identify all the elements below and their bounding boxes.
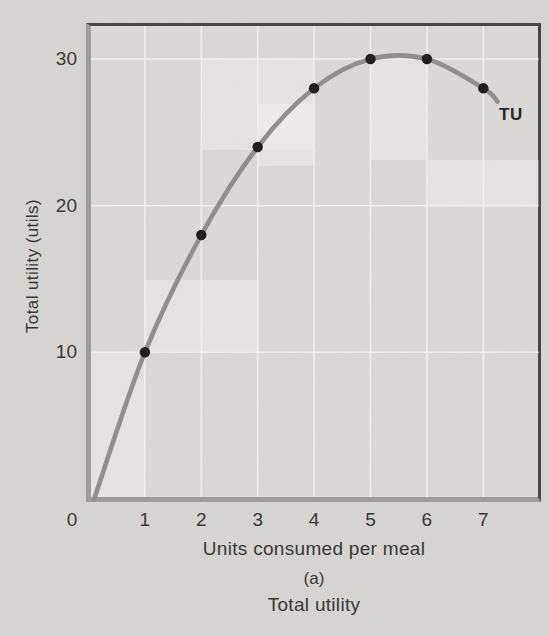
y-tick-label: 20: [27, 195, 77, 217]
x-tick-label: 1: [125, 509, 165, 531]
panel-title: Total utility: [88, 594, 540, 616]
figure-panel-a: Total utility (utils) TU Units consumed …: [0, 0, 549, 636]
x-tick-label: 2: [181, 509, 221, 531]
x-tick-label: 5: [351, 509, 391, 531]
x-tick-label: 4: [294, 509, 334, 531]
panel-letter: (a): [88, 569, 540, 589]
x-tick-label: 0: [52, 509, 92, 531]
x-axis-title: Units consumed per meal: [88, 538, 540, 560]
x-tick-label: 3: [238, 509, 278, 531]
tu-curve-label: TU: [499, 105, 523, 125]
y-tick-label: 30: [27, 48, 77, 70]
x-tick-label: 7: [463, 509, 503, 531]
x-tick-label: 6: [407, 509, 447, 531]
plot-area: [86, 23, 541, 502]
y-tick-label: 10: [27, 341, 77, 363]
